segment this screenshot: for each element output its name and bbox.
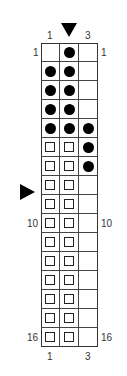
filled-circle-icon: [45, 85, 56, 96]
chart-cell: [60, 290, 79, 309]
hollow-square-icon: [64, 256, 74, 266]
hollow-square-icon: [45, 237, 55, 247]
left-row-label-1: 1: [33, 48, 39, 58]
filled-circle-icon: [45, 66, 56, 77]
chart-cell: [60, 271, 79, 290]
left-row-label-10: 10: [27, 219, 38, 229]
hollow-square-icon: [64, 294, 74, 304]
chart-cell: [79, 62, 98, 81]
chart-cell: [79, 195, 98, 214]
chart-cell: [41, 81, 60, 100]
hollow-square-icon: [45, 313, 55, 323]
chart-cell: [41, 119, 60, 138]
filled-circle-icon: [64, 123, 75, 134]
chart-cell: [60, 43, 79, 62]
chart-cell: [41, 214, 60, 233]
hollow-square-icon: [45, 256, 55, 266]
filled-circle-icon: [64, 104, 75, 115]
filled-circle-icon: [45, 123, 56, 134]
chart-cell: [79, 176, 98, 195]
chart-cell: [41, 138, 60, 157]
chart-cell: [41, 271, 60, 290]
filled-circle-icon: [45, 104, 56, 115]
chart-cell: [60, 214, 79, 233]
right-row-label-1: 1: [101, 48, 107, 58]
hollow-square-icon: [45, 218, 55, 228]
bottom-col-label-1: 1: [47, 352, 53, 362]
chart-cell: [41, 43, 60, 62]
bottom-col-label-3: 3: [85, 352, 91, 362]
hollow-square-icon: [45, 142, 55, 152]
chart-cell: [60, 157, 79, 176]
hollow-square-icon: [45, 275, 55, 285]
right-row-label-16: 16: [101, 333, 112, 343]
chart-cell: [41, 195, 60, 214]
chart-cell: [79, 233, 98, 252]
filled-circle-icon: [64, 47, 75, 58]
row-marker-icon: [20, 184, 35, 200]
hollow-square-icon: [45, 199, 55, 209]
chart-cell: [60, 62, 79, 81]
chart-cell: [41, 290, 60, 309]
hollow-square-icon: [64, 313, 74, 323]
chart-cell: [60, 119, 79, 138]
filled-circle-icon: [64, 85, 75, 96]
chart-cell: [60, 176, 79, 195]
chart-cell: [60, 100, 79, 119]
chart-cell: [41, 100, 60, 119]
chart-cell: [79, 100, 98, 119]
hollow-square-icon: [64, 199, 74, 209]
chart-cell: [79, 138, 98, 157]
chart-cell: [41, 157, 60, 176]
chart-cell: [79, 271, 98, 290]
chart-cell: [79, 290, 98, 309]
hollow-square-icon: [45, 294, 55, 304]
left-row-label-16: 16: [27, 333, 38, 343]
top-col-label-3: 3: [85, 31, 91, 41]
hollow-square-icon: [64, 142, 74, 152]
chart-cell: [41, 176, 60, 195]
hollow-square-icon: [45, 161, 55, 171]
filled-circle-icon: [83, 123, 94, 134]
chart-cell: [79, 328, 98, 347]
hollow-square-icon: [64, 161, 74, 171]
hollow-square-icon: [64, 237, 74, 247]
chart-cell: [79, 81, 98, 100]
chart-cell: [60, 309, 79, 328]
chart-cell: [41, 328, 60, 347]
chart-cell: [79, 157, 98, 176]
chart-cell: [79, 252, 98, 271]
hollow-square-icon: [45, 332, 55, 342]
chart-cell: [60, 328, 79, 347]
chart-cell: [79, 43, 98, 62]
chart-cell: [79, 214, 98, 233]
right-row-label-10: 10: [101, 219, 112, 229]
filled-circle-icon: [83, 142, 94, 153]
hollow-square-icon: [64, 180, 74, 190]
chart-cell: [60, 233, 79, 252]
filled-circle-icon: [83, 161, 94, 172]
chart-cell: [41, 309, 60, 328]
chart-cell: [79, 119, 98, 138]
chart-cell: [60, 252, 79, 271]
chart-cell: [79, 309, 98, 328]
filled-circle-icon: [64, 66, 75, 77]
chart-cell: [41, 62, 60, 81]
stitch-chart-grid: [41, 43, 98, 347]
hollow-square-icon: [64, 275, 74, 285]
column-marker-icon: [61, 23, 77, 37]
chart-cell: [60, 138, 79, 157]
chart-cell: [60, 195, 79, 214]
hollow-square-icon: [64, 218, 74, 228]
chart-cell: [60, 81, 79, 100]
hollow-square-icon: [64, 332, 74, 342]
chart-cell: [41, 233, 60, 252]
chart-cell: [41, 252, 60, 271]
hollow-square-icon: [45, 180, 55, 190]
top-col-label-1: 1: [47, 31, 53, 41]
